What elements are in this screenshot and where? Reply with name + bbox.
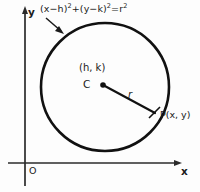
- center-point-marker: [100, 82, 106, 88]
- radius-label: r: [128, 90, 132, 100]
- equation-rhs-exponent: 2: [123, 2, 127, 10]
- diagram-canvas: [0, 0, 200, 192]
- equation-lhs-second: (y−k): [80, 3, 107, 14]
- circle-equation-label: (x−h)2+(y−k)2=r2: [40, 4, 127, 14]
- point-p-marker: [149, 107, 160, 118]
- center-coordinates-label: (h, k): [79, 63, 105, 73]
- equation-equals: =: [111, 3, 119, 14]
- center-letter-label: C: [83, 79, 90, 90]
- y-axis-label: y: [28, 7, 35, 18]
- origin-label: O: [29, 166, 36, 176]
- x-axis-label: x: [181, 166, 188, 177]
- circle-diagram: (x−h)2+(y−k)2=r2 (h, k) C r P(x, y) x y …: [0, 0, 200, 192]
- point-p-label: P(x, y): [160, 110, 190, 120]
- equation-lhs-first: (x−h): [40, 3, 68, 14]
- equation-plus: +: [72, 3, 80, 14]
